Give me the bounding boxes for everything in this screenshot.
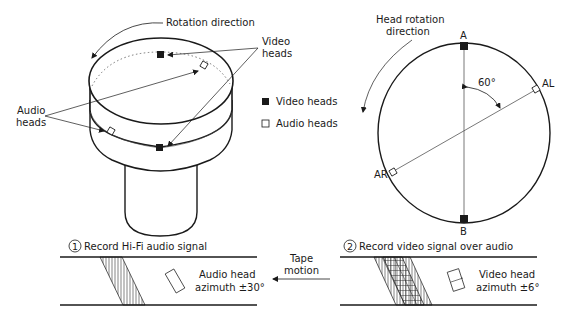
video-head-azimuth-icon xyxy=(447,269,465,292)
drum-top xyxy=(89,38,233,124)
legend: Video heads Audio heads xyxy=(262,96,338,129)
head-drum-diagram: Rotation direction Video heads Audio hea… xyxy=(16,17,292,236)
video-heads-callout-2: heads xyxy=(262,48,292,59)
panel-1-title: Record Hi-Fi audio signal xyxy=(84,241,207,252)
legend-audio-symbol xyxy=(262,120,269,127)
audio-head-label-1: Audio head xyxy=(199,269,256,280)
video-head-label-1: Video head xyxy=(479,269,535,280)
point-al-label: AL xyxy=(542,78,555,89)
audio-heads-callout-2: heads xyxy=(16,117,46,128)
angle-arc xyxy=(467,87,500,108)
video-head-label-2: azimuth ±6° xyxy=(476,282,539,293)
legend-video-symbol xyxy=(262,98,269,105)
video-heads-callout-1: Video xyxy=(262,36,290,47)
audio-head-al xyxy=(532,85,540,93)
point-ar-label: AR xyxy=(374,169,388,180)
video-head-bottom xyxy=(156,144,163,151)
video-head-a xyxy=(460,42,468,50)
audio-head-label-2: azimuth ±30° xyxy=(195,282,265,293)
tape-panel-1: 1 Record Hi-Fi audio signal Audio head a… xyxy=(60,240,265,305)
audio-head-ar xyxy=(389,168,397,176)
tape-motion-indicator: Tape motion xyxy=(273,253,330,279)
audio-heads-callout-1: Audio xyxy=(17,105,45,116)
head-rotation-arrow xyxy=(363,40,412,112)
audio-head-azimuth-icon xyxy=(165,269,185,293)
video-head-b xyxy=(460,215,468,223)
diagram-canvas: Rotation direction Video heads Audio hea… xyxy=(0,0,565,319)
axis-al-ar xyxy=(392,89,537,172)
tape-motion-label-2: motion xyxy=(284,265,319,276)
panel-2-title: Record video signal over audio xyxy=(359,241,513,252)
head-rotation-label-2: direction xyxy=(386,26,430,37)
step-1-number: 1 xyxy=(72,241,78,252)
tape-motion-label-1: Tape xyxy=(289,253,313,264)
audio-track-stripe xyxy=(100,257,145,305)
video-head-top xyxy=(157,51,164,58)
point-a-label: A xyxy=(460,30,467,41)
legend-video-label: Video heads xyxy=(276,96,337,107)
legend-audio-label: Audio heads xyxy=(276,118,338,129)
rotation-direction-label: Rotation direction xyxy=(166,17,255,28)
angle-label: 60° xyxy=(478,77,496,88)
tape-panel-2: 2 Record video signal over audio Video h… xyxy=(340,240,539,305)
point-b-label: B xyxy=(460,226,467,237)
step-2-number: 2 xyxy=(347,241,353,252)
head-angle-diagram: 60° A B AL AR Head rotation direction xyxy=(363,14,555,237)
head-rotation-label-1: Head rotation xyxy=(376,14,445,25)
